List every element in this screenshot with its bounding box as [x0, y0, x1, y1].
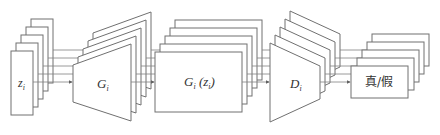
generated-label: Gi (zi) — [184, 74, 215, 91]
gan-diagram: zi Gi Gi (zi) — [0, 0, 440, 135]
discriminator-stack: Di — [270, 11, 340, 122]
output-stack: 真/假 — [351, 34, 429, 98]
input-stack: zi — [11, 19, 53, 115]
generated-stack: Gi (zi) — [155, 20, 262, 112]
generator-stack: Gi — [73, 12, 151, 121]
output-label: 真/假 — [365, 75, 393, 89]
